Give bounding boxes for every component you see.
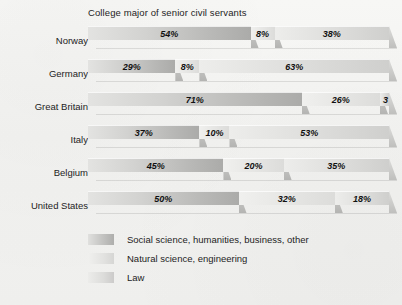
legend-swatch xyxy=(88,272,114,283)
legend-item: Social science, humanities, business, ot… xyxy=(88,231,388,250)
bar-segment: 38% xyxy=(275,26,389,40)
bar-row: Norway54%8%38% xyxy=(0,26,402,56)
bar-segment: 63% xyxy=(199,59,389,73)
bar-face: 37%10%53% xyxy=(88,125,389,139)
stacked-bar: 37%10%53% xyxy=(88,125,389,147)
bar-segment-value: 45% xyxy=(88,159,223,173)
bar-segment-depth xyxy=(292,172,397,181)
bar-segment-depth xyxy=(96,205,247,214)
bar-segment-depth xyxy=(207,73,397,82)
bar-row: Great Britain71%26%3 xyxy=(0,92,402,122)
bar-segment: 8% xyxy=(251,26,275,40)
legend-item: Natural science, engineering xyxy=(88,250,388,269)
bar-face: 54%8%38% xyxy=(88,26,389,40)
bar-face: 71%26%3 xyxy=(88,92,389,106)
bar-segment: 3 xyxy=(380,92,389,106)
bar-segment: 32% xyxy=(239,191,335,205)
plot-area: Norway54%8%38%Germany29%8%63%Great Brita… xyxy=(0,26,402,226)
bar-segment-depth xyxy=(343,205,397,214)
bar-row-label: Norway xyxy=(56,35,88,46)
legend-label: Natural science, engineering xyxy=(127,250,247,267)
stacked-bar: 29%8%63% xyxy=(88,59,389,81)
bar-segment: 18% xyxy=(335,191,389,205)
bar-segment: 10% xyxy=(199,125,229,139)
bar-segment-value: 10% xyxy=(199,126,229,140)
bar-segment: 20% xyxy=(223,158,283,172)
bar-end-cap xyxy=(389,26,397,48)
bar-row: Germany29%8%63% xyxy=(0,59,402,89)
bar-row: Belgium45%20%35% xyxy=(0,158,402,188)
bar-segment-value: 38% xyxy=(275,27,389,41)
bar-segment-value: 20% xyxy=(223,159,283,173)
bar-segment-depth xyxy=(237,139,397,148)
bar-segment: 29% xyxy=(88,59,175,73)
legend-swatch xyxy=(88,253,114,264)
bar-segment: 37% xyxy=(88,125,199,139)
bar-face: 29%8%63% xyxy=(88,59,389,73)
stacked-bar: 50%32%18% xyxy=(88,191,389,213)
bar-segment-depth xyxy=(231,172,291,181)
bar-segment: 26% xyxy=(302,92,380,106)
bar-segment-depth xyxy=(247,205,343,214)
bar-segment-depth xyxy=(96,40,259,49)
bar-segment-depth xyxy=(96,73,183,82)
bar-row: United States50%32%18% xyxy=(0,191,402,221)
bar-segment-value: 8% xyxy=(251,27,275,41)
bar-segment-value: 35% xyxy=(284,159,389,173)
bar-segment: 35% xyxy=(284,158,389,172)
legend-item: Law xyxy=(88,269,388,288)
bar-segment-depth xyxy=(96,172,231,181)
bar-face: 50%32%18% xyxy=(88,191,389,205)
bar-segment-value: 54% xyxy=(88,27,251,41)
bar-segment-value: 26% xyxy=(302,93,380,107)
bar-row-label: United States xyxy=(31,200,88,211)
bar-segment: 45% xyxy=(88,158,223,172)
bar-segment-value: 37% xyxy=(88,126,199,140)
bar-end-cap xyxy=(389,92,397,114)
bar-segment-value: 53% xyxy=(229,126,389,140)
bar-segment: 54% xyxy=(88,26,251,40)
bar-segment: 8% xyxy=(175,59,199,73)
legend-swatch xyxy=(88,234,114,245)
bar-segment-depth xyxy=(96,139,207,148)
bar-row-label: Germany xyxy=(49,68,88,79)
bar-end-cap xyxy=(389,59,397,81)
bar-segment-depth xyxy=(96,106,310,115)
bar-end-cap xyxy=(389,125,397,147)
bar-end-cap xyxy=(389,158,397,180)
bar-segment-value: 50% xyxy=(88,192,239,206)
stacked-bar: 71%26%3 xyxy=(88,92,389,114)
chart-title: College major of senior civil servants xyxy=(88,7,247,18)
bar-segment-value: 29% xyxy=(88,60,175,74)
stacked-bar: 54%8%38% xyxy=(88,26,389,48)
bar-segment-value: 32% xyxy=(239,192,335,206)
bar-row-label: Belgium xyxy=(54,167,88,178)
bar-segment-value: 71% xyxy=(88,93,302,107)
bar-segment-value: 3 xyxy=(380,93,389,107)
legend-label: Social science, humanities, business, ot… xyxy=(127,231,309,248)
bar-row-label: Italy xyxy=(71,134,88,145)
bar-segment: 71% xyxy=(88,92,302,106)
bar-row-label: Great Britain xyxy=(35,101,88,112)
bar-segment: 50% xyxy=(88,191,239,205)
bar-segment-depth xyxy=(283,40,397,49)
bar-segment: 53% xyxy=(229,125,389,139)
bar-segment-value: 63% xyxy=(199,60,389,74)
chart-legend: Social science, humanities, business, ot… xyxy=(88,231,388,288)
stacked-bar: 45%20%35% xyxy=(88,158,389,180)
bar-face: 45%20%35% xyxy=(88,158,389,172)
legend-label: Law xyxy=(127,269,144,286)
bar-segment-value: 8% xyxy=(175,60,199,74)
bar-end-cap xyxy=(389,191,397,213)
bar-segment-value: 18% xyxy=(335,192,389,206)
bar-segment-depth xyxy=(310,106,388,115)
chart-container: College major of senior civil servants N… xyxy=(0,0,402,305)
bar-row: Italy37%10%53% xyxy=(0,125,402,155)
